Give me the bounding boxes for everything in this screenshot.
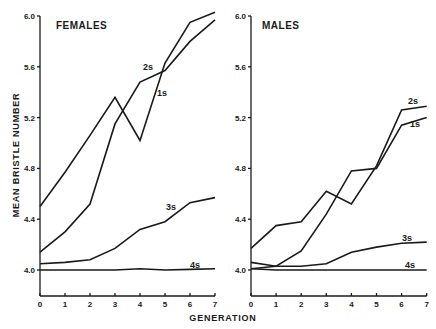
x-tick-label: 3 <box>324 300 329 309</box>
series-label-1s: 1s <box>410 119 420 129</box>
y-tick-label: 4.8 <box>235 164 247 173</box>
x-tick-label: 0 <box>249 300 254 309</box>
panel-title: MALES <box>262 20 300 31</box>
y-tick-label: 4.0 <box>24 266 36 275</box>
males-panel: 4.04.44.85.25.66.001234567MALES2s1s3s4s <box>235 12 430 309</box>
x-tick-label: 5 <box>374 300 379 309</box>
y-axis-title: MEAN BRISTLE NUMBER <box>11 93 21 218</box>
series-line-2s <box>40 12 215 206</box>
females-panel: 4.04.44.85.25.66.001234567FEMALES2s1s3s4… <box>24 12 218 309</box>
x-tick-label: 7 <box>424 300 429 309</box>
y-tick-label: 5.2 <box>24 114 36 123</box>
series-label-2s: 2s <box>408 96 418 106</box>
x-tick-label: 1 <box>274 300 279 309</box>
x-tick-label: 2 <box>299 300 304 309</box>
series-line-4s <box>251 269 427 270</box>
y-tick-label: 6.0 <box>235 12 247 21</box>
y-tick-label: 5.6 <box>235 63 247 72</box>
y-tick-label: 4.8 <box>24 164 36 173</box>
panel-title: FEMALES <box>56 20 107 31</box>
y-tick-label: 5.2 <box>235 114 247 123</box>
series-label-1s: 1s <box>157 88 167 98</box>
series-label-4s: 4s <box>405 260 415 270</box>
x-tick-label: 1 <box>63 300 68 309</box>
y-tick-label: 4.0 <box>235 266 247 275</box>
series-label-2s: 2s <box>143 62 153 72</box>
series-label-3s: 3s <box>402 233 412 243</box>
series-line-1s <box>40 20 215 252</box>
x-tick-label: 4 <box>138 300 143 309</box>
y-tick-label: 5.6 <box>24 63 36 72</box>
x-tick-label: 6 <box>399 300 404 309</box>
x-tick-label: 7 <box>213 300 218 309</box>
x-tick-label: 3 <box>113 300 118 309</box>
x-tick-label: 6 <box>188 300 193 309</box>
series-label-3s: 3s <box>166 202 176 212</box>
x-tick-label: 4 <box>349 300 354 309</box>
x-tick-label: 5 <box>163 300 168 309</box>
series-label-4s: 4s <box>190 260 200 270</box>
y-tick-label: 4.4 <box>235 215 247 224</box>
y-tick-label: 4.4 <box>24 215 36 224</box>
y-tick-label: 6.0 <box>24 12 36 21</box>
x-tick-label: 2 <box>88 300 93 309</box>
bristle-number-figure: MEAN BRISTLE NUMBER 4.04.44.85.25.66.001… <box>0 0 436 329</box>
x-axis-title: GENERATION <box>189 313 256 323</box>
series-line-4s <box>40 269 215 270</box>
x-tick-label: 0 <box>38 300 43 309</box>
